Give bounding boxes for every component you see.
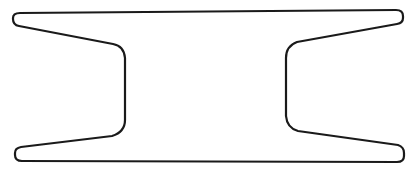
ibeam-outline-path (13, 10, 404, 162)
ibeam-outline-drawing (0, 0, 411, 176)
diagram-canvas (0, 0, 411, 176)
